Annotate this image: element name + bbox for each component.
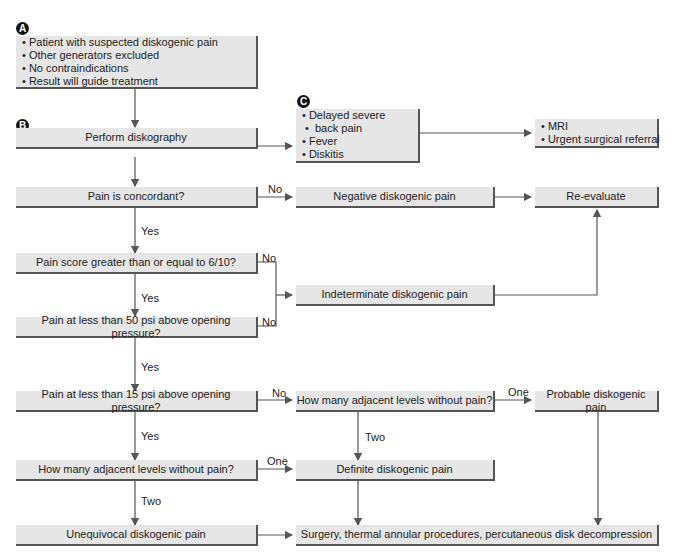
node-label: Pain score greater than or equal to 6/10… [36, 256, 236, 269]
edge-label-concordant-yes: Yes [141, 225, 159, 237]
node-label: Negative diskogenic pain [333, 190, 455, 203]
node-psi15: Pain at less than 15 psi above opening p… [16, 391, 258, 412]
node-mri-referral: MRI Urgent surgical referral [535, 119, 659, 148]
criteria-item: Patient with suspected diskogenic pain [22, 36, 218, 49]
edge-label-levels-right-one: One [508, 386, 529, 398]
edge-label-psi50-yes: Yes [141, 361, 159, 373]
complication-item: back pain [302, 122, 385, 135]
node-label: How many adjacent levels without pain? [38, 463, 234, 476]
node-psi50: Pain at less than 50 psi above opening p… [16, 317, 258, 338]
criteria-item: No contraindications [22, 62, 218, 75]
edge-label-score-yes: Yes [141, 292, 159, 304]
node-label: How many adjacent levels without pain? [297, 394, 493, 407]
complication-item: Delayed severe [302, 109, 385, 122]
complication-item: Fever [302, 135, 385, 148]
complication-item: Diskitis [302, 148, 385, 161]
edge-label-levels-right-two: Two [365, 431, 385, 443]
node-label: Pain at less than 15 psi above opening p… [16, 388, 256, 414]
node-indeterminate-diskogenic: Indeterminate diskogenic pain [296, 285, 495, 306]
edge-label-psi50-no: No [262, 316, 276, 328]
node-label: Perform diskography [85, 131, 187, 144]
node-reevaluate: Re-evaluate [535, 187, 659, 208]
edge-label-psi15-yes: Yes [141, 430, 159, 442]
action-item: MRI [541, 120, 660, 133]
node-label: Indeterminate diskogenic pain [321, 288, 467, 301]
node-adjacent-levels-right: How many adjacent levels without pain? [296, 391, 495, 412]
node-complications: Delayed severe back pain Fever Diskitis [296, 109, 420, 163]
edge-label-concordant-no: No [268, 183, 282, 195]
node-label: Probable diskogenic pain [535, 388, 657, 414]
node-label: Pain at less than 50 psi above opening p… [16, 314, 256, 340]
node-label: Re-evaluate [566, 190, 625, 203]
edge-label-levels-left-two: Two [141, 495, 161, 507]
criteria-item: Other generators excluded [22, 49, 218, 62]
node-probable-diskogenic: Probable diskogenic pain [535, 391, 659, 412]
node-label: Surgery, thermal annular procedures, per… [301, 528, 652, 541]
edge-label-score-no: No [262, 252, 276, 264]
node-unequivocal-diskogenic: Unequivocal diskogenic pain [16, 525, 258, 546]
node-label: Unequivocal diskogenic pain [66, 528, 205, 541]
edge-label-levels-left-one: One [267, 455, 288, 467]
node-negative-diskogenic: Negative diskogenic pain [296, 187, 495, 208]
edge-label-psi15-no: No [272, 387, 286, 399]
node-adjacent-levels-left: How many adjacent levels without pain? [16, 460, 258, 481]
node-definite-diskogenic: Definite diskogenic pain [296, 460, 495, 481]
criteria-item: Result will guide treatment [22, 75, 218, 88]
node-pain-concordant: Pain is concordant? [16, 187, 258, 208]
badge-a: A [16, 22, 29, 35]
node-treatment: Surgery, thermal annular procedures, per… [296, 525, 659, 546]
node-start-criteria: Patient with suspected diskogenic pain O… [16, 36, 258, 89]
node-pain-score: Pain score greater than or equal to 6/10… [16, 253, 258, 274]
node-label: Definite diskogenic pain [336, 463, 452, 476]
badge-c: C [297, 95, 310, 108]
node-perform-diskography: Perform diskography [16, 128, 258, 149]
action-item: Urgent surgical referral [541, 133, 660, 146]
node-label: Pain is concordant? [88, 190, 185, 203]
